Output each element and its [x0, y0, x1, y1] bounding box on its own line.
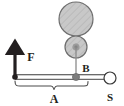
label-arm: A [50, 92, 59, 106]
label-pivot: B [82, 62, 90, 74]
support-ring [104, 72, 116, 84]
large-wheel [59, 2, 93, 36]
pivot-node [72, 73, 79, 80]
dimension-brace [15, 81, 88, 90]
lever-bar [15, 75, 110, 80]
label-support: S [107, 91, 113, 103]
label-force: F [27, 50, 34, 64]
physics-diagram: F B A S [0, 0, 124, 106]
left-node [12, 74, 18, 80]
diagram-canvas: F B A S [0, 0, 124, 106]
